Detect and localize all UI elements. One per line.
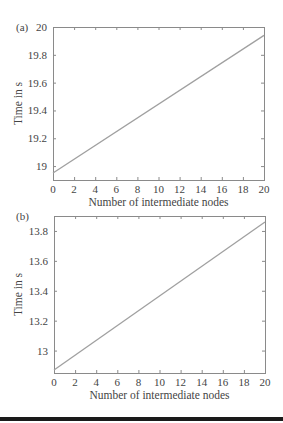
x-tick-label: 2 xyxy=(72,376,78,388)
x-tick-label: 18 xyxy=(238,376,250,388)
x-tick-label: 2 xyxy=(71,183,77,195)
bottom-rule xyxy=(0,417,283,421)
x-tick-label: 10 xyxy=(154,376,166,388)
y-tick-label: 13 xyxy=(37,345,49,357)
x-tick-label: 16 xyxy=(217,376,229,388)
x-tick-label: 14 xyxy=(196,376,208,388)
y-tick-label: 13.8 xyxy=(29,225,49,237)
panel-b: 024681012141618201313.213.413.613.8Numbe… xyxy=(12,210,271,401)
x-tick-label: 12 xyxy=(175,376,186,388)
x-tick-label: 14 xyxy=(195,183,207,195)
x-axis-label: Number of intermediate nodes xyxy=(89,389,230,401)
x-tick-label: 6 xyxy=(114,183,120,195)
x-tick-label: 0 xyxy=(51,376,57,388)
y-tick-label: 19.8 xyxy=(28,49,48,61)
x-tick-label: 20 xyxy=(260,376,272,388)
x-tick-label: 12 xyxy=(174,183,185,195)
x-tick-label: 4 xyxy=(93,376,99,388)
y-tick-label: 13.2 xyxy=(29,315,48,327)
series-line-time xyxy=(53,35,264,173)
x-tick-label: 20 xyxy=(259,183,271,195)
y-tick-label: 20 xyxy=(36,21,48,33)
x-axis-label: Number of intermediate nodes xyxy=(88,196,229,208)
x-tick-label: 8 xyxy=(136,376,142,388)
y-tick-label: 19.2 xyxy=(28,132,47,144)
x-tick-label: 0 xyxy=(50,183,56,195)
x-tick-label: 8 xyxy=(135,183,141,195)
x-tick-label: 4 xyxy=(92,183,98,195)
y-axis-label: Time in s xyxy=(12,81,24,125)
figure: 024681012141618201919.219.419.619.820Num… xyxy=(0,0,283,423)
panel-a: 024681012141618201919.219.419.619.820Num… xyxy=(12,21,270,208)
y-tick-label: 19 xyxy=(36,160,48,172)
panel-label: (b) xyxy=(16,210,29,223)
x-tick-label: 10 xyxy=(153,183,165,195)
y-tick-label: 13.6 xyxy=(29,255,49,267)
series-line-time xyxy=(54,222,265,370)
y-tick-label: 13.4 xyxy=(29,285,49,297)
x-tick-label: 18 xyxy=(237,183,249,195)
y-tick-label: 19.6 xyxy=(28,77,48,89)
x-tick-label: 16 xyxy=(216,183,228,195)
panel-label: (a) xyxy=(16,21,29,34)
x-tick-label: 6 xyxy=(115,376,121,388)
y-axis-label: Time in s xyxy=(12,272,24,316)
y-tick-label: 19.4 xyxy=(28,104,48,116)
